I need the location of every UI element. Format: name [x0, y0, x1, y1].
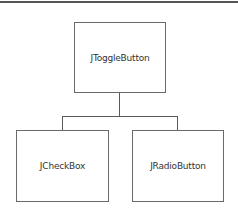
node-jradiobutton: JRadioButton — [132, 130, 224, 202]
node-jcheckbox: JCheckBox — [16, 130, 109, 202]
connector-left-vertical — [62, 116, 63, 130]
connector-horizontal — [62, 116, 178, 117]
node-jtogglebutton: JToggleButton — [74, 22, 166, 93]
connector-right-vertical — [177, 116, 178, 130]
connector-root-vertical — [119, 93, 120, 117]
node-label: JRadioButton — [150, 161, 206, 171]
node-label: JCheckBox — [40, 161, 85, 171]
node-label: JToggleButton — [90, 53, 149, 63]
top-border-rule — [0, 1, 238, 3]
